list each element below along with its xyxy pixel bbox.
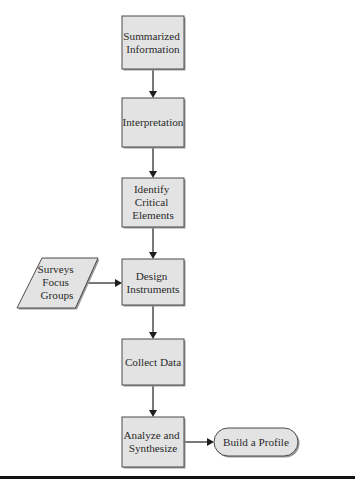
svg-text:Analyze and Synthesize: Analyze and Synthesize [123,429,182,454]
node-label-line: Interpretation [123,116,184,128]
svg-text:Build a Profile: Build a Profile [223,436,289,448]
node-label-line: Synthesize [129,442,178,454]
node-label-line: Collect Data [125,356,181,368]
svg-text:Collect Data: Collect Data [125,356,181,368]
node-label-line: Focus [42,276,69,288]
node-interpretation: Interpretation [122,98,186,149]
svg-text:Identify Critical: Identify Critical Elements [132,183,174,221]
node-build-a-profile: Build a Profile [214,428,300,458]
node-label-line: Design [136,270,168,282]
node-summarized-information: Summarized Information [122,16,186,71]
page-divider-rule [0,476,355,479]
svg-text:Surveys Focus Grou: Surveys Focus Groups [38,263,77,301]
arrowhead-icon [149,332,157,339]
node-analyze-and-synthesize: Analyze and Synthesize [122,417,186,469]
node-design-instruments: Design Instruments [122,259,186,307]
node-label-line: Elements [132,209,174,221]
node-label-line: Identify [134,183,170,195]
arrowhead-icon [207,438,214,446]
node-label-line: Instruments [127,283,180,295]
flowchart-diagram: Summarized Information Interpretation Id… [0,0,355,486]
node-label-line: Analyze and [123,429,180,441]
node-label-line: Surveys [38,263,74,275]
arrowhead-icon [149,410,157,417]
node-surveys-focus-groups: Surveys Focus Groups [17,258,100,310]
node-label-line: Build a Profile [223,436,289,448]
node-label-line: Information [126,43,180,55]
arrowhead-icon [149,252,157,259]
node-label-line: Summarized [123,30,180,42]
arrowhead-icon [115,279,122,287]
svg-text:Interpretation: Interpretation [123,116,184,128]
node-label-line: Critical [135,196,169,208]
arrowhead-icon [149,171,157,178]
arrowhead-icon [149,91,157,98]
node-collect-data: Collect Data [122,339,186,387]
svg-text:Summarized Information: Summarized Information [123,30,182,55]
node-label-line: Groups [41,289,74,301]
node-identify-critical-elements: Identify Critical Elements [122,178,186,229]
